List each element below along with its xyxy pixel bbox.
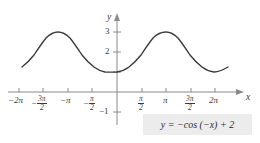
pi-text: π <box>214 95 219 105</box>
y-axis-label: y <box>107 13 111 23</box>
x-tick-label-pi-over-2: π 2 <box>138 95 144 112</box>
x-tick-label-3pi-over-2: 3π 2 <box>185 95 195 112</box>
pi-text: π <box>163 95 168 105</box>
fraction: π 2 <box>138 95 144 112</box>
numerator: π <box>89 95 95 103</box>
y-tick-label-2: 2 <box>105 47 110 56</box>
pi-text: π <box>19 95 24 105</box>
denominator: 2 <box>185 103 195 112</box>
denominator: 2 <box>89 103 95 112</box>
x-tick-label-neg-pi-over-2: − π 2 <box>83 95 95 112</box>
fraction: π 2 <box>89 95 95 112</box>
equation-label: y = −cos (−x) + 2 <box>161 119 234 130</box>
fraction: 3π 2 <box>37 95 47 112</box>
pi-text: π <box>66 95 71 105</box>
x-tick-label-neg-3pi-over-2: − 3π 2 <box>31 95 47 112</box>
y-tick-label-neg1: −1 <box>99 107 109 116</box>
x-tick-label-neg-2pi: −2π <box>8 96 23 105</box>
denominator: 2 <box>138 103 144 112</box>
x-tick-label-pi: π <box>163 96 168 105</box>
fraction: 3π 2 <box>185 95 195 112</box>
x-tick-label-neg-pi: −π <box>60 96 71 105</box>
graph-figure: y x 3 2 −1 −2π − 3π 2 −π − π 2 π 2 π 3 <box>0 0 260 143</box>
numerator: 3π <box>37 95 47 103</box>
denominator: 2 <box>37 103 47 112</box>
x-tick-label-2pi: 2π <box>209 96 218 105</box>
x-axis-label: x <box>246 93 250 103</box>
numerator: π <box>138 95 144 103</box>
function-curve <box>22 32 228 72</box>
numerator: 3π <box>185 95 195 103</box>
y-axis <box>114 13 120 125</box>
y-tick-label-3: 3 <box>105 27 110 36</box>
equation-box: y = −cos (−x) + 2 <box>143 114 252 135</box>
